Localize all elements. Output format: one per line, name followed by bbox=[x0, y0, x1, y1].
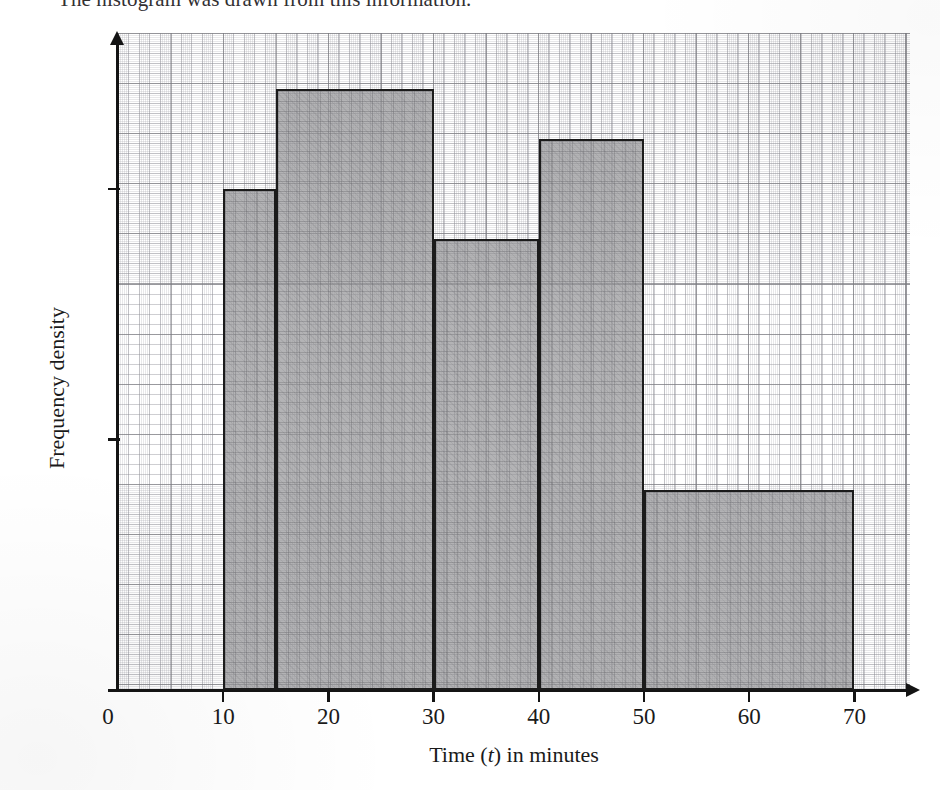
histogram-bar bbox=[644, 490, 854, 690]
x-axis-tick bbox=[748, 690, 750, 702]
x-axis-tick-label: 30 bbox=[404, 705, 464, 728]
x-axis-tick bbox=[327, 690, 329, 702]
x-axis-title-suffix: ) in minutes bbox=[494, 742, 599, 767]
x-axis-title-prefix: Time ( bbox=[429, 742, 487, 767]
x-axis-tick-label: 10 bbox=[193, 705, 253, 728]
y-axis-tick bbox=[108, 438, 120, 440]
x-axis-tick bbox=[538, 690, 540, 702]
x-axis-tick-label: 50 bbox=[614, 705, 674, 728]
x-axis-tick bbox=[222, 690, 224, 702]
x-axis-tick-label: 60 bbox=[719, 705, 779, 728]
x-axis-tick-label: 20 bbox=[298, 705, 358, 728]
histogram-bar bbox=[539, 139, 644, 690]
x-axis-tick-label: 0 bbox=[78, 705, 138, 728]
y-axis-tick bbox=[108, 188, 120, 190]
x-axis-title: Time (t) in minutes bbox=[118, 742, 910, 768]
y-axis-title: Frequency density bbox=[44, 273, 70, 503]
histogram-bar bbox=[223, 189, 276, 690]
histogram-bar bbox=[434, 239, 539, 690]
y-axis-arrow-icon bbox=[110, 31, 124, 45]
x-axis-tick bbox=[432, 690, 434, 702]
x-axis-tick-label: 40 bbox=[509, 705, 569, 728]
x-axis-arrow-icon bbox=[906, 683, 920, 697]
x-axis-tick bbox=[643, 690, 645, 702]
histogram-bar bbox=[276, 89, 434, 690]
y-axis-line bbox=[116, 42, 119, 692]
histogram-figure: 12 010203040506070 Frequency density Tim… bbox=[0, 0, 940, 790]
x-axis-tick-label: 70 bbox=[824, 705, 884, 728]
x-axis-tick bbox=[853, 690, 855, 702]
